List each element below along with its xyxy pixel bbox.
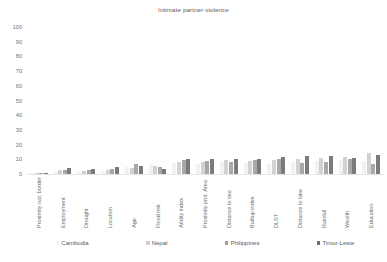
bar-group	[74, 27, 98, 174]
bar[interactable]	[125, 167, 129, 174]
y-axis-tick: 100	[0, 24, 22, 30]
legend-swatch-icon	[317, 241, 320, 244]
y-axis-tick: 40	[0, 112, 22, 118]
bar[interactable]	[315, 161, 319, 174]
x-axis-label: Proximity nat. border	[36, 176, 42, 228]
x-axis-label: Employment	[59, 176, 65, 228]
x-axis-labels: Proximity nat. borderEmploymentDroughtLo…	[27, 176, 383, 228]
x-axis-label: Aridity index	[178, 176, 184, 228]
y-axis-tick: 0	[0, 171, 22, 177]
bar[interactable]	[324, 162, 328, 174]
x-axis-label-cell: Distance to lake	[288, 176, 312, 228]
bar-groups	[27, 27, 383, 174]
bar[interactable]	[224, 160, 228, 174]
bar[interactable]	[149, 164, 153, 174]
bar[interactable]	[139, 166, 143, 174]
bar[interactable]	[339, 160, 343, 174]
bar-group	[98, 27, 122, 174]
x-axis-label-cell: Proximity prot. Area	[193, 176, 217, 228]
bar[interactable]	[244, 163, 248, 174]
bar[interactable]	[196, 164, 200, 174]
bar[interactable]	[229, 162, 233, 174]
chart-container: Intimate partner violence 10090807060504…	[0, 0, 387, 262]
bar[interactable]	[210, 159, 214, 174]
bar[interactable]	[371, 164, 375, 174]
bar[interactable]	[134, 164, 138, 174]
bar[interactable]	[186, 159, 190, 174]
bar[interactable]	[158, 167, 162, 174]
bar[interactable]	[291, 162, 295, 174]
bar[interactable]	[300, 163, 304, 174]
bar[interactable]	[201, 162, 205, 174]
bar[interactable]	[305, 156, 309, 174]
bar[interactable]	[348, 159, 352, 174]
plot-area	[27, 27, 383, 174]
bar-group	[169, 27, 193, 174]
x-axis-label: Drought	[83, 176, 89, 228]
bar-group	[241, 27, 265, 174]
bar[interactable]	[277, 159, 281, 174]
x-axis-label-cell: Builtup index	[241, 176, 265, 228]
x-axis-label-cell: Education	[359, 176, 383, 228]
bar[interactable]	[281, 157, 285, 174]
x-axis-label-cell: DLST	[264, 176, 288, 228]
legend-item-nepal[interactable]: Nepal	[146, 240, 167, 246]
x-axis-label-cell: Wealth	[336, 176, 360, 228]
legend-label: Philippines	[230, 240, 259, 246]
legend-item-cambodia[interactable]: Cambodia	[56, 240, 89, 246]
legend-item-timor-leste[interactable]: Timor-Leste	[317, 240, 354, 246]
bar[interactable]	[319, 158, 323, 174]
x-axis-label: DLST	[273, 176, 279, 228]
bar-group	[146, 27, 170, 174]
x-axis-label-cell: Employment	[51, 176, 75, 228]
chart-title: Intimate partner violence	[0, 6, 387, 13]
bar-group	[122, 27, 146, 174]
y-axis-tick: 80	[0, 53, 22, 59]
legend-label: Nepal	[152, 240, 168, 246]
y-axis-tick: 30	[0, 127, 22, 133]
x-axis-label: Proximity prot. Area	[202, 176, 208, 228]
bar[interactable]	[329, 156, 333, 174]
x-axis-label: Education	[368, 176, 374, 228]
x-axis-label: Wealth	[344, 176, 350, 228]
x-axis-label-cell: Flood risk	[146, 176, 170, 228]
bar[interactable]	[253, 160, 257, 174]
bar-group	[51, 27, 75, 174]
legend-swatch-icon	[225, 241, 228, 244]
x-axis-label-cell: Location	[98, 176, 122, 228]
x-axis-label: Builtup index	[249, 176, 255, 228]
y-axis-tick: 60	[0, 83, 22, 89]
x-axis-label: Age	[131, 176, 137, 228]
legend-label: Cambodia	[61, 240, 88, 246]
bar[interactable]	[153, 166, 157, 174]
bar[interactable]	[267, 164, 271, 174]
x-axis-label-cell: Drought	[74, 176, 98, 228]
bar-group	[336, 27, 360, 174]
legend-item-philippines[interactable]: Philippines	[225, 240, 260, 246]
bar[interactable]	[172, 163, 176, 174]
x-axis-label: Distance to lake	[297, 176, 303, 228]
bar[interactable]	[296, 159, 300, 174]
bar[interactable]	[362, 161, 366, 174]
bar[interactable]	[234, 159, 238, 174]
bar-group	[27, 27, 51, 174]
bar[interactable]	[367, 153, 371, 174]
x-axis-label-cell: Distance to sea	[217, 176, 241, 228]
bar[interactable]	[220, 162, 224, 174]
bar[interactable]	[343, 157, 347, 174]
bar[interactable]	[248, 161, 252, 174]
x-axis-label-cell: Proximity nat. border	[27, 176, 51, 228]
legend-swatch-icon	[56, 241, 59, 244]
bar[interactable]	[272, 160, 276, 174]
y-axis: 1009080706050403020100	[0, 27, 25, 174]
bar[interactable]	[257, 159, 261, 174]
x-axis-label: Location	[107, 176, 113, 228]
y-axis-tick: 90	[0, 39, 22, 45]
x-axis-label: Rainfall	[321, 176, 327, 228]
bar[interactable]	[177, 162, 181, 174]
bar[interactable]	[376, 155, 380, 174]
bar[interactable]	[115, 167, 119, 174]
bar[interactable]	[352, 158, 356, 174]
bar[interactable]	[182, 160, 186, 174]
bar[interactable]	[205, 161, 209, 174]
